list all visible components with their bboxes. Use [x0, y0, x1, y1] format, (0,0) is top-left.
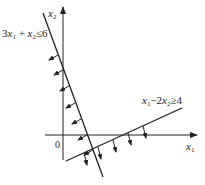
x1-axis-label: x1 — [185, 140, 195, 154]
constraint-2-label: x1−2x2≥4 — [141, 94, 183, 108]
hatch-arrow-icon — [54, 70, 63, 75]
x2-axis-label: x2 — [47, 7, 57, 21]
hatch-arrow-icon — [113, 140, 116, 152]
hatch-arrow-icon — [72, 119, 81, 124]
constraint-line-1 — [43, 13, 103, 177]
hatch-arrow-icon — [66, 103, 75, 108]
hatch-arrow-icon — [49, 55, 58, 60]
hatch-arrow-icon — [78, 135, 87, 140]
constraint-2-hatch-arrows — [84, 126, 146, 165]
origin-label: 0 — [55, 139, 60, 150]
hatch-arrow-icon — [143, 126, 146, 138]
hatch-arrow-icon — [98, 147, 101, 159]
hatch-arrow-icon — [84, 153, 87, 165]
feasible-region-diagram: x2 x1 0 3x1 + x2≤6 x1−2x2≥4 — [0, 0, 205, 185]
constraint-1-label: 3x1 + x2≤6 — [2, 27, 48, 41]
hatch-arrow-icon — [60, 86, 69, 91]
